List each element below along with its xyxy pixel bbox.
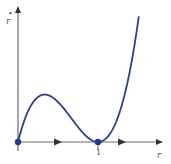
flow-arrow-right — [54, 139, 62, 146]
flow-arrow-right — [118, 139, 126, 146]
phase-line-chart: • r r 1 — [0, 0, 171, 164]
x-axis-label: r — [157, 150, 162, 160]
fixed-point — [15, 139, 21, 145]
x-axis-arrowhead — [156, 139, 163, 145]
x-tick-label: 1 — [96, 148, 101, 157]
y-axis-label: r — [6, 16, 11, 26]
fixed-point — [95, 139, 101, 145]
series-line — [18, 16, 139, 142]
y-axis-arrowhead — [15, 6, 21, 13]
